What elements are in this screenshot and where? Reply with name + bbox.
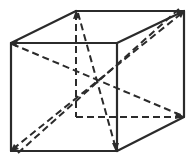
hidden-edges (76, 13, 184, 117)
cube-diagram (0, 0, 193, 158)
edge-bottom-right (117, 117, 184, 151)
edge-top-left (11, 11, 76, 43)
diagonal-btl-fbr (78, 13, 116, 149)
